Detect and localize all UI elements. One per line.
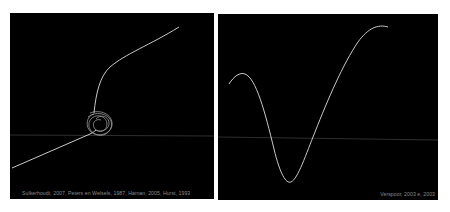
- left-citation-caption: Sulkerhoudt, 2007, Peters en Welsels, 19…: [22, 190, 190, 196]
- dip-and-rise-curve: [229, 26, 388, 182]
- upper-curved-segment: [94, 27, 179, 113]
- left-diagram-panel: Sulkerhoudt, 2007, Peters en Welsels, 19…: [10, 13, 214, 199]
- right-citation-caption: Verspoor, 2003 e, 2003: [380, 191, 435, 197]
- right-curve-graphic: [218, 14, 438, 200]
- baseline: [10, 135, 214, 136]
- left-trajectory-graphic: [10, 13, 214, 199]
- tangle-loop: [87, 112, 112, 136]
- baseline: [218, 137, 438, 140]
- right-diagram-panel: Verspoor, 2003 e, 2003: [218, 14, 438, 200]
